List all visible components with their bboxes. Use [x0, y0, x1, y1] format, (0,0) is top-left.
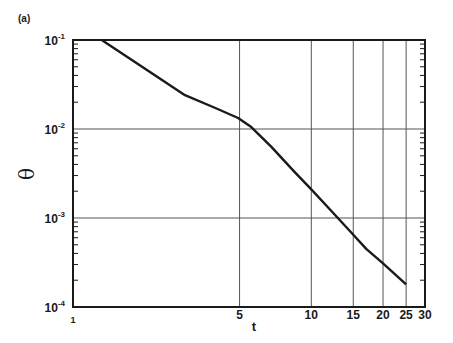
x-tick-label: 10 [305, 308, 319, 322]
x-tick-label: 1 [70, 315, 75, 325]
y-tick-label: 10-3 [45, 210, 66, 226]
x-tick-label: 15 [347, 308, 361, 322]
y-tick-label: 10-4 [45, 299, 66, 315]
chart: (a) 151015202530 10-110-210-310-4 θ t [0, 0, 453, 343]
y-axis-label: θ [15, 168, 39, 180]
x-tick-label: 20 [376, 308, 390, 322]
x-tick-label: 5 [236, 308, 243, 322]
plot-frame [73, 40, 425, 307]
x-tick-label: 25 [399, 308, 413, 322]
y-tick-label: 10-2 [45, 121, 66, 137]
minor-ticks [73, 44, 425, 280]
x-tick-label: 30 [418, 308, 432, 322]
grid-lines [73, 40, 425, 307]
y-tick-label: 10-1 [45, 32, 66, 48]
y-axis-tick-labels: 10-110-210-310-4 [45, 32, 66, 315]
data-line [102, 40, 406, 284]
panel-label: (a) [18, 13, 30, 24]
x-axis-label: t [252, 319, 257, 334]
